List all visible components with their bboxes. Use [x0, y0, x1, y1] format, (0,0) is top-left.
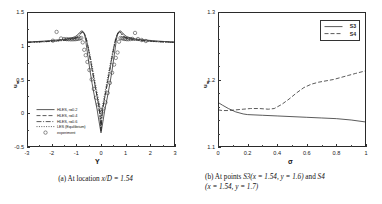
- figure-two-panel: um Y -3-2-10123-0.500.511.5 HLES, r=0.2H…: [0, 0, 382, 204]
- x-minor-tick: [262, 145, 263, 147]
- series-line: [218, 102, 366, 122]
- x-minor-tick: [113, 145, 114, 147]
- legend-key-solid: [324, 24, 348, 29]
- x-minor-tick: [138, 145, 139, 147]
- legend-label: S4: [350, 31, 356, 37]
- legend-label: LES (Equilibrium): [57, 124, 86, 129]
- panel-b-sigma-sensitivity: S3S4 um σ 00.20.40.60.811.11.21.3 (b) At…: [191, 0, 382, 204]
- legend-a-item: HLES, r=0.2: [36, 107, 86, 112]
- y-minor-tick: [27, 96, 29, 97]
- x-tick-label: 0: [93, 150, 109, 156]
- y-minor-tick: [218, 26, 220, 27]
- x-tick-label: 3: [167, 150, 183, 156]
- x-tick-label: -2: [44, 150, 60, 156]
- caption-a: (a) At location x/D = 1.54: [0, 174, 191, 184]
- legend-label: HLES, r=0.4: [57, 113, 77, 118]
- x-tick-label: 0.2: [240, 150, 256, 156]
- y-minor-tick: [218, 93, 220, 94]
- y-tick-mark: [218, 80, 221, 81]
- x-tick-label: 0.6: [299, 150, 315, 156]
- y-tick-mark: [27, 12, 30, 13]
- legend-key-dashdot: [36, 119, 55, 124]
- x-tick-label: 0.4: [269, 150, 285, 156]
- y-minor-tick: [218, 134, 220, 135]
- x-minor-tick: [39, 145, 40, 147]
- y-tick-mark: [27, 113, 30, 114]
- x-tick-mark: [150, 144, 151, 147]
- x-tick-mark: [277, 144, 278, 147]
- legend-key-dotted: [36, 124, 55, 129]
- legend-b-item: S4: [324, 31, 356, 37]
- y-minor-tick: [27, 29, 29, 30]
- x-tick-mark: [52, 144, 53, 147]
- y-tick-mark: [27, 80, 30, 81]
- x-tick-mark: [307, 144, 308, 147]
- y-minor-tick: [218, 53, 220, 54]
- y-tick-label: 0.5: [5, 77, 24, 83]
- x-tick-mark: [175, 144, 176, 147]
- x-tick-label: 1: [118, 150, 134, 156]
- y-tick-mark: [218, 12, 221, 13]
- x-tick-label: 0.8: [328, 150, 344, 156]
- y-tick-label: 1.2: [196, 77, 215, 83]
- legend-label: S3: [350, 23, 356, 29]
- legend-b: S3S4: [320, 20, 360, 41]
- caption-b: (b) At points S3(x = 1.54, y = 1.6) and …: [191, 172, 382, 192]
- x-tick-label: -3: [19, 150, 35, 156]
- experiment-points: [51, 30, 147, 114]
- legend-label: HLES, r=0.2: [57, 107, 77, 112]
- x-minor-tick: [163, 145, 164, 147]
- legend-a-item: experiment: [36, 130, 86, 135]
- plot-area-b: S3S4: [218, 12, 366, 147]
- y-minor-tick: [27, 63, 29, 64]
- y-minor-tick: [218, 39, 220, 40]
- legend-a-item: LES (Equilibrium): [36, 124, 86, 129]
- x-tick-mark: [101, 144, 102, 147]
- legend-a-item: HLES, r=0.6: [36, 119, 86, 124]
- y-minor-tick: [218, 66, 220, 67]
- legend-b-item: S3: [324, 23, 356, 29]
- x-minor-tick: [351, 145, 352, 147]
- legend-key-dashed: [36, 113, 55, 118]
- legend-key-circle: [36, 130, 55, 135]
- x-tick-label: -1: [68, 150, 84, 156]
- y-tick-label: 1.5: [5, 9, 24, 15]
- legend-key-solid: [36, 107, 55, 112]
- legend-a-item: HLES, r=0.4: [36, 113, 86, 118]
- x-axis-title-a: Y: [95, 158, 100, 165]
- y-minor-tick: [27, 130, 29, 131]
- panel-a-wake-profile: um Y -3-2-10123-0.500.511.5 HLES, r=0.2H…: [0, 0, 191, 204]
- y-minor-tick: [218, 120, 220, 121]
- y-tick-label: 1.3: [196, 9, 215, 15]
- x-tick-mark: [336, 144, 337, 147]
- x-tick-mark: [248, 144, 249, 147]
- x-tick-label: 1: [358, 150, 374, 156]
- series-line: [218, 71, 366, 111]
- legend-a: HLES, r=0.2HLES, r=0.4HLES, r=0.6LES (Eq…: [36, 107, 86, 136]
- y-tick-mark: [27, 147, 30, 148]
- y-minor-tick: [218, 107, 220, 108]
- x-axis-title-b: σ: [288, 158, 293, 165]
- x-tick-label: 0: [210, 150, 226, 156]
- legend-key-dashed: [324, 31, 348, 36]
- y-tick-label: -0.5: [5, 144, 24, 150]
- y-tick-mark: [27, 46, 30, 47]
- y-tick-label: 0: [5, 110, 24, 116]
- legend-label: HLES, r=0.6: [57, 119, 77, 124]
- legend-label: experiment: [57, 130, 75, 135]
- x-tick-label: 2: [142, 150, 158, 156]
- x-minor-tick: [322, 145, 323, 147]
- x-minor-tick: [292, 145, 293, 147]
- y-tick-label: 1.1: [196, 144, 215, 150]
- x-tick-mark: [366, 144, 367, 147]
- x-tick-mark: [126, 144, 127, 147]
- x-minor-tick: [233, 145, 234, 147]
- x-minor-tick: [89, 145, 90, 147]
- x-tick-mark: [76, 144, 77, 147]
- x-minor-tick: [64, 145, 65, 147]
- y-tick-label: 1: [5, 43, 24, 49]
- y-tick-mark: [218, 147, 221, 148]
